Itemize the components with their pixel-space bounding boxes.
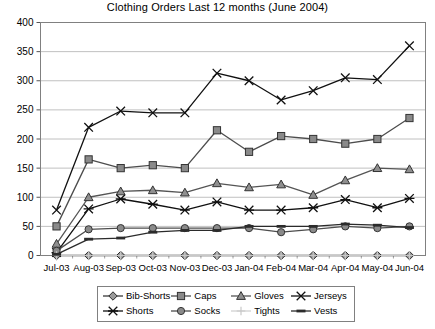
dash-marker-icon	[290, 305, 312, 317]
x-tick-label: Apr-04	[331, 262, 360, 273]
legend-item-label: Jerseys	[314, 291, 347, 301]
chart-title: Clothing Orders Last 12 months (June 200…	[0, 1, 435, 13]
legend-item-tights[interactable]: Tights	[230, 305, 290, 317]
asterisk-marker-icon	[308, 203, 318, 212]
triangle-marker-icon	[52, 239, 61, 247]
legend-item-bib-shorts[interactable]: Bib-Shorts	[102, 290, 170, 302]
asterisk-marker-icon	[180, 206, 190, 215]
dash-marker-icon	[373, 224, 382, 227]
dash-marker-icon	[309, 225, 318, 228]
plus-marker-icon	[245, 251, 254, 260]
square-marker-icon	[278, 132, 285, 139]
cross-marker-icon	[52, 206, 61, 215]
cross-marker-icon	[309, 86, 318, 95]
legend-item-gloves[interactable]: Gloves	[230, 290, 290, 302]
dash-marker-icon	[84, 238, 93, 241]
dash-marker-icon	[245, 225, 254, 228]
dash-marker-icon	[52, 253, 61, 256]
x-tick-label: Dec-03	[202, 262, 233, 273]
legend-item-caps[interactable]: Caps	[170, 290, 230, 302]
y-tick-label: 0	[28, 250, 34, 261]
legend-item-label: Tights	[254, 306, 280, 316]
x-tick-label: Jul-03	[44, 262, 70, 273]
x-tick-label: Feb-04	[266, 262, 296, 273]
square-marker-icon	[310, 135, 317, 142]
dash-marker-icon	[405, 226, 414, 229]
square-marker-icon	[149, 162, 156, 169]
x-tick-label: Nov-03	[170, 262, 201, 273]
legend-item-vests[interactable]: Vests	[290, 305, 350, 317]
diamond-marker-icon	[102, 290, 124, 302]
plus-marker-icon	[181, 251, 190, 260]
x-tick-label: Oct-03	[139, 262, 168, 273]
dash-marker-icon	[290, 305, 312, 317]
square-marker-icon	[245, 148, 252, 155]
legend-item-label: Bib-Shorts	[126, 291, 170, 301]
circle-marker-icon	[278, 229, 285, 236]
plus-marker-icon	[148, 251, 157, 260]
asterisk-marker-icon	[276, 206, 286, 215]
plus-marker-icon	[116, 251, 125, 260]
dash-marker-icon	[212, 229, 221, 232]
circle-marker-icon	[170, 305, 192, 317]
y-tick-label: 200	[17, 134, 34, 145]
cross-marker-icon	[277, 96, 286, 105]
plus-marker-icon	[230, 305, 252, 317]
asterisk-marker-icon	[212, 198, 222, 207]
circle-marker-icon	[85, 226, 92, 233]
plus-marker-icon	[237, 306, 246, 315]
triangle-marker-icon	[230, 290, 252, 302]
y-tick-label: 150	[17, 163, 34, 174]
y-tick-label: 350	[17, 46, 34, 57]
asterisk-marker-icon	[404, 194, 414, 203]
asterisk-marker-icon	[340, 195, 350, 204]
square-marker-icon	[117, 165, 124, 172]
x-tick-label: May-04	[362, 262, 394, 273]
cross-marker-icon	[84, 123, 93, 132]
legend-item-label: Socks	[194, 306, 220, 316]
y-tick-label: 300	[17, 75, 34, 86]
y-tick-label: 250	[17, 104, 34, 115]
legend-item-label: Shorts	[126, 306, 153, 316]
legend-item-socks[interactable]: Socks	[170, 305, 230, 317]
y-tick-label: 50	[22, 221, 34, 232]
dash-marker-icon	[116, 237, 125, 240]
cross-marker-icon	[405, 42, 414, 51]
dash-marker-icon	[297, 309, 306, 312]
cross-marker-icon	[290, 290, 312, 302]
y-tick-label: 100	[17, 192, 34, 203]
circle-marker-icon	[178, 307, 185, 314]
series-line	[57, 198, 410, 252]
series-caps	[53, 114, 413, 230]
x-tick-label: Jun-04	[395, 262, 424, 273]
square-marker-icon	[374, 135, 381, 142]
square-marker-icon	[170, 290, 192, 302]
asterisk-marker-icon	[102, 305, 124, 317]
square-marker-icon	[342, 140, 349, 147]
plus-marker-icon	[309, 251, 318, 260]
asterisk-marker-icon	[116, 195, 126, 204]
asterisk-marker-icon	[102, 305, 124, 317]
square-marker-icon	[178, 292, 185, 299]
asterisk-marker-icon	[84, 205, 94, 214]
cross-marker-icon	[290, 290, 312, 302]
plus-marker-icon	[405, 251, 414, 260]
circle-marker-icon	[149, 225, 156, 232]
chart-container: Clothing Orders Last 12 months (June 200…	[0, 0, 435, 329]
plus-marker-icon	[213, 251, 222, 260]
diamond-marker-icon	[102, 290, 124, 302]
asterisk-marker-icon	[244, 206, 254, 215]
y-tick-label: 400	[17, 17, 34, 28]
plus-marker-icon	[373, 251, 382, 260]
legend-item-jerseys[interactable]: Jerseys	[290, 290, 350, 302]
legend-item-label: Caps	[194, 291, 216, 301]
legend-item-shorts[interactable]: Shorts	[102, 305, 170, 317]
dash-marker-icon	[341, 223, 350, 226]
square-marker-icon	[170, 290, 192, 302]
square-marker-icon	[53, 223, 60, 230]
square-marker-icon	[406, 114, 413, 121]
plot-area: 050100150200250300350400Jul-03Aug-03Sep-…	[0, 14, 435, 294]
x-tick-label: Sep-03	[105, 262, 136, 273]
series-shorts	[52, 194, 415, 257]
asterisk-marker-icon	[148, 200, 158, 209]
